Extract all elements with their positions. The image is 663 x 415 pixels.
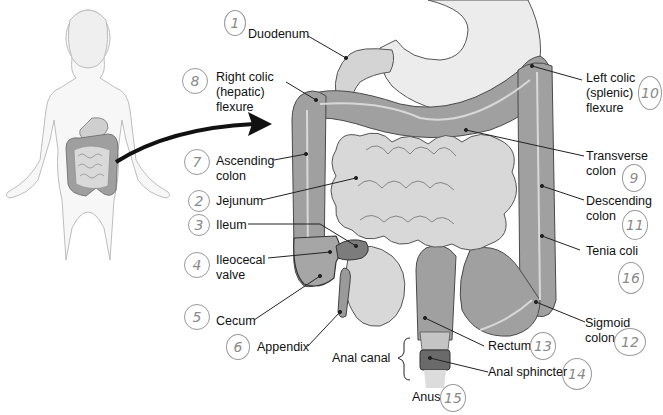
handwritten-number-7: 7 [184, 149, 210, 175]
handwritten-number-5: 5 [184, 304, 210, 330]
label-tenia-coli: Tenia coli [586, 244, 638, 259]
label-duodenum: Duodenum [248, 27, 309, 42]
anal-sphincter-shape [420, 350, 450, 370]
handwritten-number-4: 4 [184, 252, 210, 278]
label-anus: Anus [412, 390, 441, 405]
anal-canal-shape [420, 332, 450, 350]
label-appendix: Appendix [257, 340, 309, 355]
handwritten-number-2: 2 [188, 190, 210, 212]
label-right-colic-flexure: Right colic (hepatic) flexure [216, 70, 274, 115]
handwritten-number-12: 12 [614, 328, 646, 356]
handwritten-number-15: 15 [440, 384, 466, 412]
handwritten-number-9: 9 [622, 164, 646, 192]
anatomy-diagram: Duodenum Right colic (hepatic) flexure A… [0, 0, 663, 415]
label-cecum: Cecum [216, 314, 256, 329]
handwritten-number-11: 11 [622, 210, 648, 240]
handwritten-number-1: 1 [224, 10, 246, 36]
handwritten-number-8: 8 [182, 68, 208, 94]
handwritten-number-16: 16 [618, 262, 644, 294]
label-anal-canal: Anal canal [332, 351, 390, 366]
label-ileocecal-valve: Ileocecal valve [216, 253, 265, 283]
handwritten-number-13: 13 [530, 332, 556, 360]
handwritten-number-3: 3 [188, 214, 210, 236]
label-jejunum: Jejunum [216, 194, 263, 209]
ileocecal-valve-shape [336, 240, 368, 260]
handwritten-number-10: 10 [638, 76, 662, 110]
label-left-colic-flexure: Left colic (splenic) flexure [586, 71, 635, 116]
label-rectum: Rectum [488, 339, 531, 354]
label-ascending-colon: Ascending colon [216, 154, 274, 184]
handwritten-number-14: 14 [562, 358, 592, 390]
anal-canal-brace [398, 338, 410, 380]
label-anal-sphincter: Anal sphincter [488, 365, 567, 380]
handwritten-number-6: 6 [226, 334, 250, 360]
label-ileum: Ileum [216, 218, 247, 233]
